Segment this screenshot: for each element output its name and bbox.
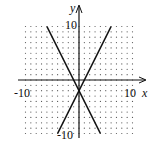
x-axis-label: x xyxy=(141,86,148,100)
y-max-tick-label: 10 xyxy=(65,18,77,32)
x-min-tick-label: -10 xyxy=(14,86,30,100)
y-axis-label: y xyxy=(69,1,76,15)
y-min-tick-label: -10 xyxy=(57,128,73,142)
x-max-tick-label: 10 xyxy=(124,86,136,100)
coordinate-plane: y x 10 -10 -10 10 xyxy=(0,0,152,147)
